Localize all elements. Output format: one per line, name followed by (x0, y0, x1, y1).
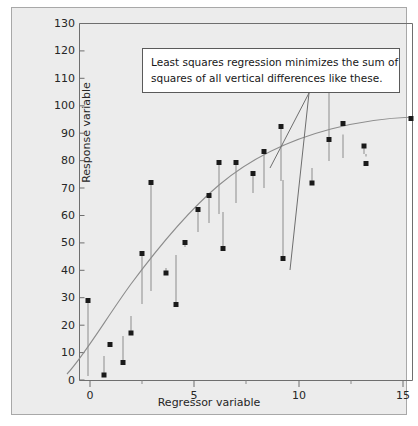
data-point (196, 207, 201, 212)
svg-text:60: 60 (61, 209, 75, 222)
screenshot-root: 130 120 110 100 90 80 70 60 50 40 30 20 … (0, 0, 418, 426)
data-point (364, 161, 369, 166)
data-point (221, 246, 226, 251)
data-point (183, 240, 188, 245)
svg-text:40: 40 (61, 264, 75, 277)
svg-text:110: 110 (54, 72, 75, 85)
residual-segments (88, 90, 412, 377)
svg-text:50: 50 (61, 236, 75, 249)
data-point (251, 171, 256, 176)
data-point (129, 331, 134, 336)
data-point-markers (86, 116, 414, 378)
annotation-callout: Least squares regression minimizes the s… (142, 48, 400, 93)
svg-text:100: 100 (54, 99, 75, 112)
data-point (234, 160, 239, 165)
data-point (281, 256, 286, 261)
annotation-line-1: Least squares regression minimizes the s… (151, 54, 391, 70)
data-point (86, 298, 91, 303)
svg-text:20: 20 (61, 319, 75, 332)
data-point (310, 181, 315, 186)
data-point (149, 180, 154, 185)
data-point (174, 302, 179, 307)
data-point (108, 342, 113, 347)
data-point (121, 360, 126, 365)
svg-text:0: 0 (68, 374, 75, 387)
svg-text:90: 90 (61, 127, 75, 140)
y-axis-title: Response variable (80, 53, 93, 213)
svg-text:120: 120 (54, 44, 75, 57)
clipped-top-text-strip (0, 0, 418, 6)
data-point (102, 373, 107, 378)
svg-text:10: 10 (61, 346, 75, 359)
data-point (327, 137, 332, 142)
annotation-line-2: squares of all vertical differences like… (151, 70, 391, 86)
data-point (217, 160, 222, 165)
svg-text:70: 70 (61, 182, 75, 195)
y-tick-labels: 130 120 110 100 90 80 70 60 50 40 30 20 … (54, 17, 75, 387)
data-point (140, 251, 145, 256)
leader-line-left (270, 93, 309, 168)
annotation-leader-lines (270, 93, 309, 270)
svg-text:130: 130 (54, 17, 75, 30)
data-point (164, 271, 169, 276)
leader-line-right (290, 93, 309, 270)
data-point (262, 149, 267, 154)
data-point (362, 144, 367, 149)
data-point (409, 116, 414, 121)
x-axis-title: Regressor variable (11, 396, 407, 409)
data-point (279, 124, 284, 129)
svg-text:30: 30 (61, 291, 75, 304)
x-axis-minor-ticks (142, 381, 351, 385)
svg-text:80: 80 (61, 154, 75, 167)
chart-panel: 130 120 110 100 90 80 70 60 50 40 30 20 … (11, 7, 407, 415)
data-point (341, 121, 346, 126)
regression-fit-curve (67, 117, 413, 374)
data-point (207, 193, 212, 198)
